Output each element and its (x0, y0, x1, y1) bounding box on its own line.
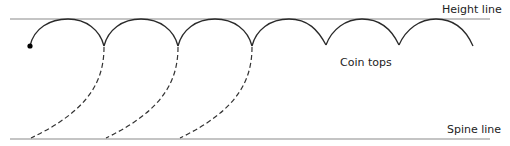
coin-arc-3 (178, 19, 252, 46)
coin-arc-2 (104, 19, 178, 46)
dashed-spine-curves (31, 47, 252, 138)
height-line-label: Height line (442, 4, 502, 16)
coin-top-arcs (30, 19, 473, 46)
diagram-canvas: Height line Coin tops Spine line (0, 0, 510, 146)
dashed-curve-3 (180, 47, 252, 138)
dashed-curve-2 (106, 47, 178, 138)
start-dot (27, 43, 32, 48)
coin-arc-6 (399, 19, 473, 46)
spine-line-label: Spine line (447, 124, 501, 136)
coin-arc-1 (30, 19, 104, 46)
dashed-curve-1 (31, 47, 104, 138)
coin-tops-label: Coin tops (340, 57, 392, 69)
coin-arc-4 (252, 19, 326, 46)
coin-arc-5 (326, 19, 399, 45)
coin-arc-diagram (0, 0, 510, 146)
